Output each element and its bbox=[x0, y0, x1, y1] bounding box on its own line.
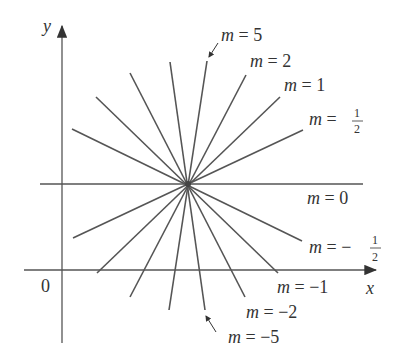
slope-labels: m = 5 m = 2 m = 1 m = 1 2 m = 0 m = − 1 … bbox=[221, 25, 381, 347]
pointer-arrow-m5 bbox=[209, 43, 218, 57]
y-axis-label: y bbox=[41, 16, 51, 36]
center-point bbox=[185, 181, 191, 187]
slope-lines bbox=[40, 61, 363, 310]
label-m-neg2: m = −2 bbox=[246, 302, 297, 322]
svg-text:1: 1 bbox=[354, 106, 360, 120]
label-m5: m = 5 bbox=[221, 25, 262, 45]
label-m-neg5: m = −5 bbox=[228, 327, 279, 347]
svg-text:1: 1 bbox=[372, 233, 378, 247]
label-m2: m = 2 bbox=[250, 51, 291, 71]
svg-text:m =: m = bbox=[309, 109, 337, 129]
x-axis-label: x bbox=[365, 278, 374, 298]
label-m-neg1: m = −1 bbox=[277, 277, 328, 297]
svg-text:2: 2 bbox=[372, 250, 378, 264]
svg-text:m = −: m = − bbox=[309, 237, 351, 257]
label-m1: m = 1 bbox=[284, 75, 325, 95]
label-m-half: m = 1 2 bbox=[309, 106, 363, 136]
svg-text:2: 2 bbox=[354, 122, 360, 136]
origin-label: 0 bbox=[41, 276, 50, 296]
pointer-arrow-m-neg5 bbox=[206, 316, 216, 332]
label-m0: m = 0 bbox=[307, 188, 348, 208]
label-m-neg-half: m = − 1 2 bbox=[309, 233, 381, 264]
slope-diagram: y x 0 m = 5 m = 2 m = 1 m = 1 2 m = 0 m … bbox=[0, 0, 414, 359]
